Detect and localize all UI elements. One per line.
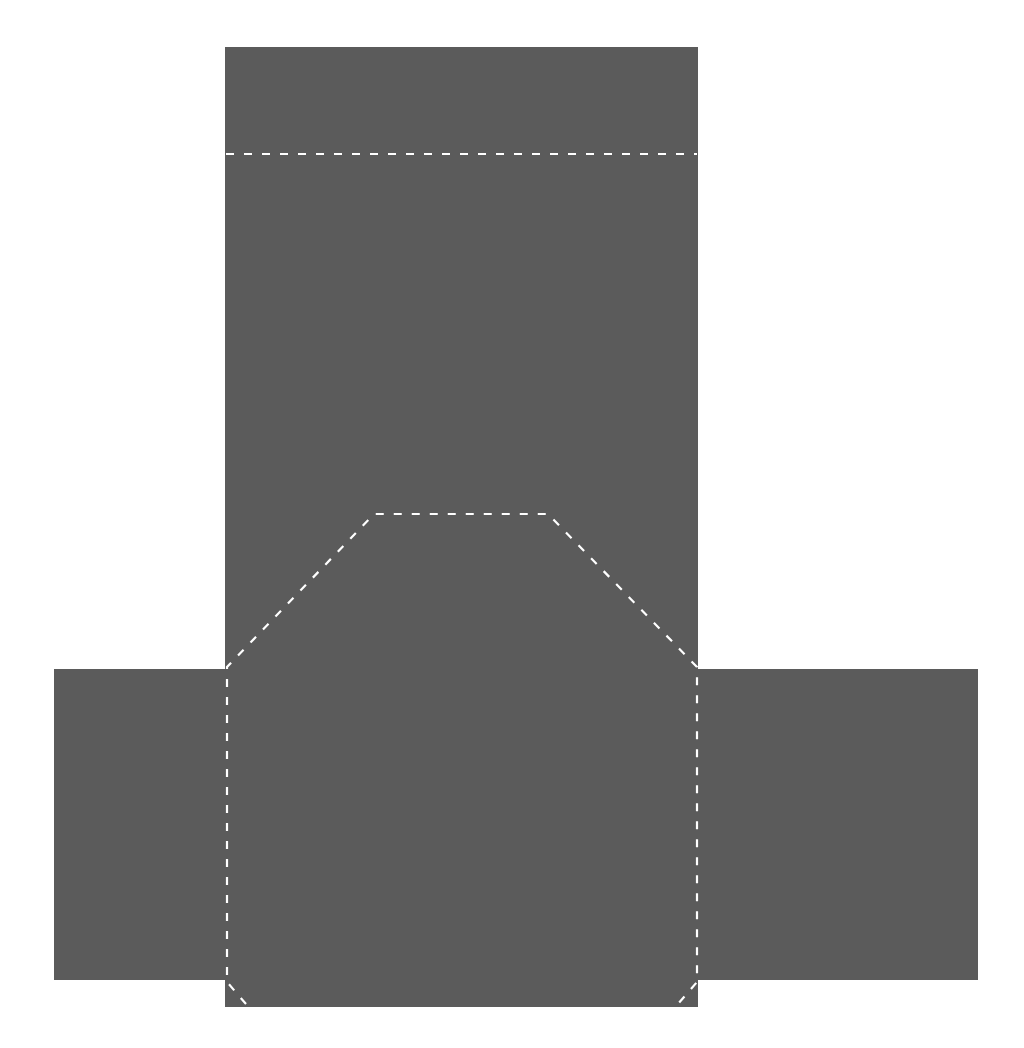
right-flap <box>698 669 978 980</box>
main-panel <box>225 47 698 1007</box>
box-dieline-diagram <box>0 0 1024 1048</box>
left-flap <box>54 669 226 980</box>
